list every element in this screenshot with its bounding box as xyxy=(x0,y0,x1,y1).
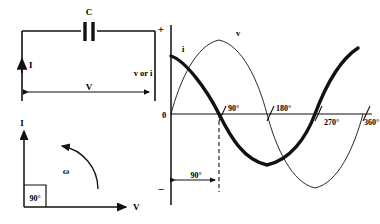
circuit-current-label: I xyxy=(29,60,33,70)
graph-tick-label-180: 180° xyxy=(276,104,291,113)
waveform-graph: + − v or i 0 90° 180° 270° 360° v i 90° xyxy=(134,23,380,205)
graph-tick-label-90: 90° xyxy=(228,104,239,113)
capacitor-label: C xyxy=(86,7,93,17)
graph-tick-label-270: 270° xyxy=(324,118,339,127)
phasor-rotation-label: ω xyxy=(63,166,70,176)
current-curve-label: i xyxy=(182,44,185,54)
circuit-diagram: C I V xyxy=(22,7,155,101)
graph-positive-sign: + xyxy=(158,23,164,35)
phasor-angle-label: 90° xyxy=(29,194,40,203)
graph-origin-label: 0 xyxy=(162,110,166,120)
phasor-current-label: I xyxy=(20,118,24,128)
phasor-diagram: I V 90° ω xyxy=(20,118,140,212)
figure-svg: C I V I V 90° ω + − v or i 0 xyxy=(0,0,380,224)
circuit-voltage-label: V xyxy=(86,82,93,92)
phasor-voltage-label: V xyxy=(133,202,140,212)
voltage-curve-label: v xyxy=(236,28,241,38)
figure-canvas: C I V I V 90° ω + − v or i 0 xyxy=(0,0,380,224)
graph-y-axis-label: v or i xyxy=(134,68,153,78)
phase-lead-label: 90° xyxy=(190,171,201,180)
graph-negative-sign: − xyxy=(158,183,164,195)
graph-tick-label-360: 360° xyxy=(364,118,379,127)
